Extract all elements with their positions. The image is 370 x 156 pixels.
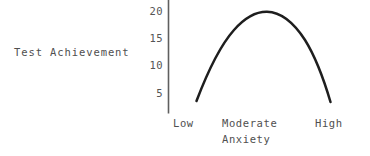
x-axis-tick-label-moderate: Moderate <box>222 117 277 129</box>
y-axis-tick-label: 15 <box>141 32 163 44</box>
chart-plot-area <box>0 0 370 156</box>
achievement-curve <box>197 12 331 102</box>
x-axis-tick-label-low: Low <box>173 117 194 129</box>
y-axis-title: Test Achievement <box>14 46 130 58</box>
chart-figure: Test Achievement 20 15 10 5 Low Moderate… <box>0 0 370 156</box>
y-axis-tick-label: 5 <box>141 87 163 99</box>
x-axis-title: Anxiety <box>222 133 270 145</box>
y-axis-tick-label: 20 <box>141 5 163 17</box>
x-axis-tick-label-high: High <box>315 117 343 129</box>
y-axis-tick-label: 10 <box>141 59 163 71</box>
